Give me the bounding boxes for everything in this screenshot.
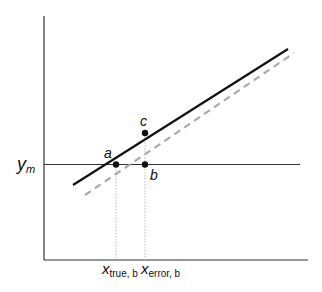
y-axis-label: ym [15, 154, 35, 175]
x-error-label: xerror, b [140, 260, 181, 279]
point-c [142, 130, 148, 136]
x-true-label: xtrue, b [101, 260, 138, 279]
label-c: c [140, 113, 147, 129]
label-b: b [150, 167, 158, 183]
calibration-diagram: a b c ym xtrue, b xerror, b [0, 0, 322, 292]
label-a: a [104, 145, 112, 161]
dashed-calibration-line [85, 53, 294, 195]
point-b [142, 161, 148, 167]
point-true [113, 161, 119, 167]
